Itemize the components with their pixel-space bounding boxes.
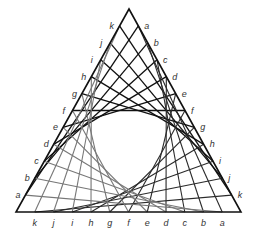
bottom-to-left-line-j [54,43,111,212]
left-edge-label-d: d [44,139,50,149]
left-edge-label-j: j [99,38,103,48]
left-edge-label-h: h [81,72,86,82]
envelope-lines [25,26,231,212]
left-edge-label-k: k [110,21,115,31]
right-edge-label-i: i [219,156,222,166]
bottom-edge-label-k: k [33,218,38,228]
right-edge-label-g: g [200,122,205,132]
right-edge-label-d: d [172,72,178,82]
bottom-edge-label-i: i [71,218,74,228]
left-edge-label-e: e [53,122,58,132]
right-edge-label-b: b [154,38,159,48]
right-edge-label-f: f [191,106,195,116]
right-edge-label-k: k [238,190,243,200]
bottom-to-left-line-g [82,94,110,212]
bottom-edge-label-c: c [183,218,188,228]
bottom-edge-label-a: a [220,218,225,228]
right-edge-label-h: h [210,139,215,149]
left-edge-label-b: b [25,173,30,183]
bottom-edge-label-f: f [127,218,131,228]
right-edge-label-j: j [227,173,231,183]
right-edge-label-e: e [182,89,187,99]
left-edge-label-f: f [63,106,67,116]
bottom-edge-label-d: d [163,218,169,228]
left-edge-label-a: a [15,190,20,200]
bottom-edge-label-j: j [52,218,56,228]
bottom-edge-label-h: h [88,218,93,228]
right-edge-label-c: c [163,55,168,65]
left-edge-label-g: g [72,89,77,99]
left-edge-label-i: i [91,55,94,65]
right-edge-label-a: a [144,21,149,31]
string-art-triangle-diagram: abcdefghijkabcdefghijkabcdefghijk [0,0,255,248]
left-edge-label-c: c [34,156,39,166]
bottom-edge-label-g: g [107,218,112,228]
bottom-edge-label-b: b [201,218,206,228]
bottom-edge-label-e: e [145,218,150,228]
